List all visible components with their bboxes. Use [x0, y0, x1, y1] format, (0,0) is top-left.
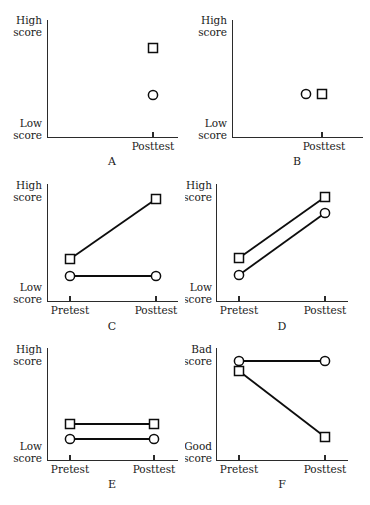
axis-lines — [233, 20, 364, 138]
data-marker-square — [150, 420, 159, 429]
y-axis-bottom-label-line1: Low — [190, 281, 212, 293]
panel-letter: C — [108, 320, 116, 333]
y-axis-top-label-line1: High — [186, 179, 212, 191]
x-tick-label-posttest: Posttest — [303, 140, 346, 152]
data-marker-square — [149, 44, 158, 53]
y-axis-bottom-label-line2: score — [13, 129, 42, 141]
y-axis-bottom-label-line1: Good — [185, 440, 212, 452]
data-marker-circle — [148, 90, 157, 99]
data-marker-circle — [320, 208, 329, 217]
y-axis-bottom-label-line1: Low — [205, 117, 227, 129]
x-tick-label-posttest: Posttest — [304, 304, 347, 316]
x-tick-label-posttest: Posttest — [132, 140, 175, 152]
figure-panel-grid: High score Low score Posttest A High sco… — [0, 0, 370, 505]
x-tick-label-pretest: Pretest — [51, 463, 90, 475]
chart-panel-e: High score Low score Pretest Posttest E — [0, 336, 185, 505]
series-line-square — [239, 197, 325, 258]
panel-letter: E — [108, 478, 116, 491]
panel-letter: A — [107, 155, 117, 168]
chart-panel-c: High score Low score Pretest Posttest C — [0, 168, 185, 336]
axis-lines — [48, 20, 179, 138]
series-line-square — [239, 371, 325, 437]
y-axis-bottom-label-line2: score — [185, 293, 212, 305]
y-axis-top-label-line2: score — [185, 191, 212, 203]
y-axis-bottom-label-line1: Low — [20, 440, 42, 452]
data-marker-square — [235, 367, 244, 376]
data-marker-circle — [149, 434, 158, 443]
chart-svg-d: High score Low score Pretest Posttest D — [185, 168, 370, 336]
y-axis-top-label-line2: score — [13, 26, 42, 38]
data-marker-circle — [151, 271, 160, 280]
panel-letter: B — [293, 155, 301, 168]
data-marker-circle — [234, 270, 243, 279]
data-marker-square — [152, 195, 161, 204]
y-axis-bottom-label-line2: score — [198, 129, 227, 141]
series-line-circle — [239, 213, 325, 275]
data-marker-circle — [234, 356, 243, 365]
y-axis-top-label-line1: High — [16, 179, 42, 191]
data-marker-circle — [65, 271, 74, 280]
y-axis-bottom-label-line1: Low — [20, 117, 42, 129]
x-tick-label-pretest: Pretest — [220, 463, 259, 475]
panel-letter: D — [278, 320, 287, 333]
data-marker-circle — [65, 434, 74, 443]
x-tick-label-pretest: Pretest — [51, 304, 90, 316]
data-marker-circle — [320, 356, 329, 365]
y-axis-top-label-line2: score — [198, 26, 227, 38]
chart-panel-a: High score Low score Posttest A — [0, 0, 185, 168]
chart-panel-b: High score Low score Posttest B — [185, 0, 370, 168]
y-axis-top-label-line1: High — [201, 14, 227, 26]
x-tick-label-posttest: Posttest — [135, 304, 178, 316]
axis-lines — [48, 348, 179, 461]
x-tick-label-pretest: Pretest — [220, 304, 259, 316]
data-marker-square — [318, 90, 327, 99]
chart-svg-a: High score Low score Posttest A — [0, 0, 185, 168]
chart-svg-c: High score Low score Pretest Posttest C — [0, 168, 185, 336]
data-marker-square — [235, 254, 244, 263]
y-axis-top-label-line2: score — [13, 191, 42, 203]
data-marker-square — [66, 420, 75, 429]
y-axis-top-label-line1: High — [16, 14, 42, 26]
y-axis-top-label-line1: Bad — [191, 343, 212, 355]
data-marker-square — [321, 193, 330, 202]
data-marker-circle — [301, 89, 310, 98]
y-axis-top-label-line1: High — [16, 343, 42, 355]
y-axis-top-label-line2: score — [185, 355, 212, 367]
y-axis-bottom-label-line2: score — [13, 293, 42, 305]
y-axis-top-label-line2: score — [13, 355, 42, 367]
panel-letter: F — [278, 478, 286, 491]
chart-svg-b: High score Low score Posttest B — [185, 0, 370, 168]
data-marker-square — [66, 255, 75, 264]
chart-panel-f: Bad score Good score Pretest Posttest F — [185, 336, 370, 505]
x-tick-label-posttest: Posttest — [304, 463, 347, 475]
y-axis-bottom-label-line2: score — [185, 452, 212, 464]
series-line-square — [70, 199, 156, 259]
data-marker-square — [321, 433, 330, 442]
chart-svg-f: Bad score Good score Pretest Posttest F — [185, 336, 370, 505]
y-axis-bottom-label-line2: score — [13, 452, 42, 464]
x-tick-label-posttest: Posttest — [133, 463, 176, 475]
chart-svg-e: High score Low score Pretest Posttest E — [0, 336, 185, 505]
chart-panel-d: High score Low score Pretest Posttest D — [185, 168, 370, 336]
y-axis-bottom-label-line1: Low — [20, 281, 42, 293]
